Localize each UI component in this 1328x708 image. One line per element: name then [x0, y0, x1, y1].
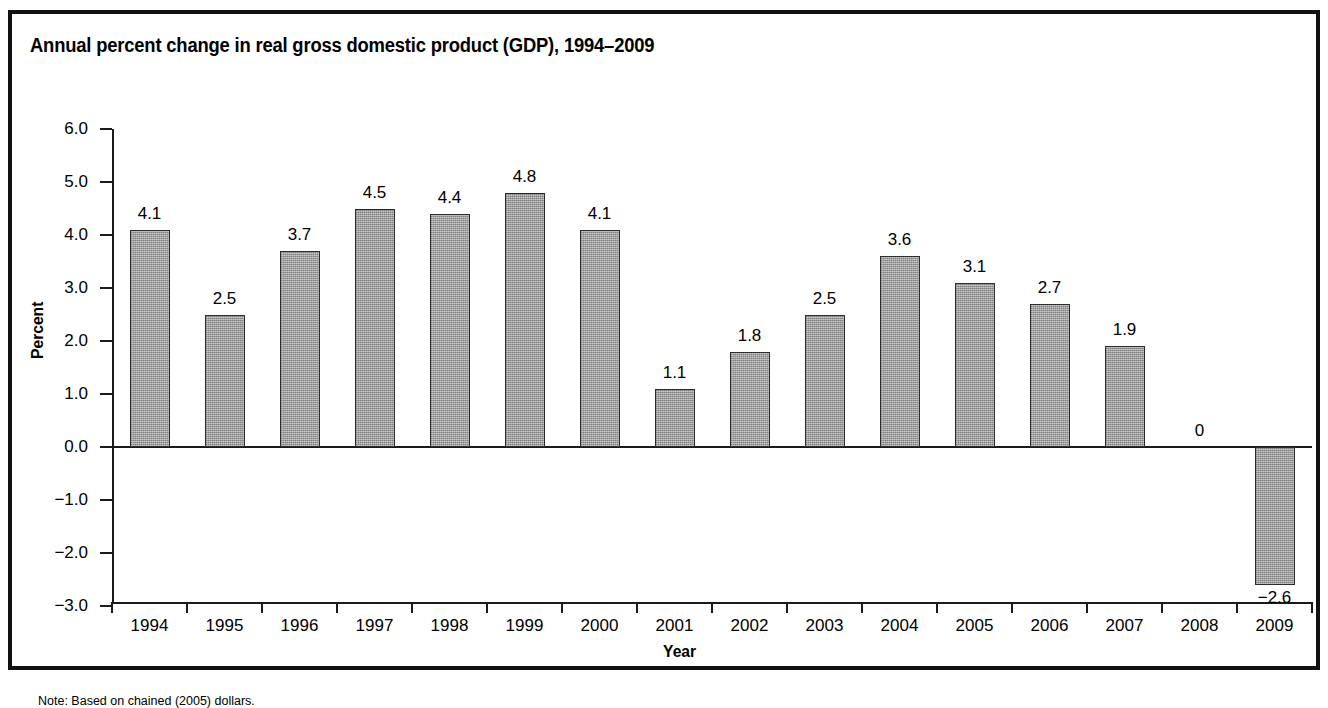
y-tick-mark [100, 181, 112, 183]
bar-1996[interactable] [280, 251, 320, 447]
y-tick-label: 2.0 [32, 331, 88, 351]
x-tick-mark [336, 602, 338, 613]
x-axis-title-text: Year [663, 642, 696, 662]
x-tick-mark [561, 602, 563, 613]
x-tick-mark [636, 602, 638, 613]
y-tick-mark [100, 340, 112, 342]
bar-value-label-2006: 2.7 [1038, 278, 1062, 298]
bar-value-label-2009: −2.6 [1258, 588, 1292, 608]
y-tick-mark [100, 287, 112, 289]
bar-value-label-1996: 3.7 [288, 225, 312, 245]
x-tick-mark [411, 602, 413, 613]
x-tick-mark [111, 602, 113, 613]
x-tick-mark [1236, 602, 1238, 613]
bar-value-label-2007: 1.9 [1113, 320, 1137, 340]
x-tick-label: 2000 [581, 616, 619, 636]
x-tick-label: 2006 [1031, 616, 1069, 636]
x-tick-label: 1994 [131, 616, 169, 636]
y-axis-line [112, 129, 114, 604]
y-tick-mark [100, 446, 112, 448]
bar-2001[interactable] [655, 389, 695, 447]
bar-value-label-1998: 4.4 [438, 188, 462, 208]
x-tick-label: 2003 [806, 616, 844, 636]
x-tick-label: 2001 [656, 616, 694, 636]
bar-2000[interactable] [580, 230, 620, 447]
y-tick-label: 3.0 [32, 278, 88, 298]
x-tick-mark [1161, 602, 1163, 613]
x-tick-label: 2007 [1106, 616, 1144, 636]
bar-value-label-2005: 3.1 [963, 257, 987, 277]
bar-value-label-2001: 1.1 [663, 363, 687, 383]
bar-2005[interactable] [955, 283, 995, 447]
x-tick-mark [786, 602, 788, 613]
y-tick-label: −3.0 [32, 596, 88, 616]
bar-value-label-1999: 4.8 [513, 167, 537, 187]
y-tick-label: 5.0 [32, 172, 88, 192]
bar-value-label-2008: 0 [1195, 421, 1204, 441]
y-tick-mark [100, 393, 112, 395]
x-tick-label: 1996 [281, 616, 319, 636]
bar-value-label-1995: 2.5 [213, 289, 237, 309]
bar-2002[interactable] [730, 352, 770, 447]
x-tick-mark [486, 602, 488, 613]
x-tick-label: 2002 [731, 616, 769, 636]
y-tick-label: 4.0 [32, 225, 88, 245]
x-tick-label: 1995 [206, 616, 244, 636]
bar-value-label-2004: 3.6 [888, 230, 912, 250]
bar-1994[interactable] [130, 230, 170, 447]
x-tick-mark [1011, 602, 1013, 613]
bar-2003[interactable] [805, 315, 845, 448]
x-tick-label: 1998 [431, 616, 469, 636]
x-tick-label: 1997 [356, 616, 394, 636]
x-tick-label: 2009 [1256, 616, 1294, 636]
y-tick-mark [100, 234, 112, 236]
figure-panel: Annual percent change in real gross dome… [8, 10, 1320, 670]
x-tick-label: 2008 [1181, 616, 1219, 636]
y-tick-label: −2.0 [32, 543, 88, 563]
y-tick-mark [100, 552, 112, 554]
bar-2007[interactable] [1105, 346, 1145, 447]
x-tick-mark [1311, 602, 1313, 613]
bar-1995[interactable] [205, 315, 245, 448]
bar-value-label-2000: 4.1 [588, 204, 612, 224]
x-tick-label: 2004 [881, 616, 919, 636]
x-axis-title: Year [12, 642, 1316, 662]
bar-2009[interactable] [1255, 447, 1295, 585]
bar-value-label-1994: 4.1 [138, 204, 162, 224]
x-tick-mark [861, 602, 863, 613]
chart-note: Note: Based on chained (2005) dollars. [38, 694, 255, 708]
y-tick-label: 1.0 [32, 384, 88, 404]
bar-2006[interactable] [1030, 304, 1070, 447]
x-tick-mark [711, 602, 713, 613]
bar-2004[interactable] [880, 256, 920, 447]
bar-chart-plot-area: Percent 6.05.04.03.02.01.00.0−1.0−2.0−3.… [12, 14, 1316, 666]
bar-value-label-1997: 4.5 [363, 183, 387, 203]
bar-1998[interactable] [430, 214, 470, 447]
bar-value-label-2003: 2.5 [813, 289, 837, 309]
x-tick-mark [1086, 602, 1088, 613]
y-tick-label: 6.0 [32, 119, 88, 139]
y-tick-label: −1.0 [32, 490, 88, 510]
y-tick-label: 0.0 [32, 437, 88, 457]
y-tick-mark [100, 128, 112, 130]
bar-value-label-2002: 1.8 [738, 326, 762, 346]
x-tick-mark [936, 602, 938, 613]
x-tick-label: 2005 [956, 616, 994, 636]
x-tick-mark [261, 602, 263, 613]
x-tick-label: 1999 [506, 616, 544, 636]
bar-1999[interactable] [505, 193, 545, 447]
x-tick-mark [186, 602, 188, 613]
bar-1997[interactable] [355, 209, 395, 448]
y-tick-mark [100, 499, 112, 501]
